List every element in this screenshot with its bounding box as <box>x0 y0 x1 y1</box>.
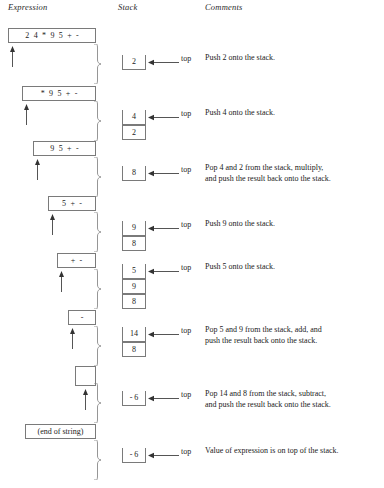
expression-token: - <box>80 254 83 267</box>
top-label: top <box>181 220 191 229</box>
brace-connector <box>93 326 102 366</box>
top-pointer-arrow <box>147 169 179 178</box>
expression-token: * <box>41 87 45 100</box>
top-label: top <box>181 263 191 272</box>
comment-line: push the result back onto the stack. <box>205 336 322 347</box>
top-pointer-arrow <box>147 394 179 403</box>
top-pointer-arrow <box>147 267 179 276</box>
stack-cell: 2 <box>122 55 146 70</box>
expression-box: +- <box>57 253 96 268</box>
comment-text: Pop 5 and 9 from the stack, add, andpush… <box>205 325 322 346</box>
expression-token: - <box>79 197 82 210</box>
top-label: top <box>181 109 191 118</box>
stack-column: 148 <box>122 327 146 357</box>
comment-line: Push 9 onto the stack. <box>205 219 275 230</box>
comment-text: Push 5 onto the stack. <box>205 262 275 273</box>
stack-cell: 4 <box>122 110 146 125</box>
comment-line: Value of expression is on top of the sta… <box>205 446 339 457</box>
column-header-stack: Stack <box>118 2 137 12</box>
stack-cell: - 6 <box>122 391 146 406</box>
top-pointer-arrow <box>147 330 179 339</box>
expression-box: *95+- <box>22 86 96 101</box>
comment-line: Pop 5 and 9 from the stack, add, and <box>205 325 322 336</box>
expression-token: 9 <box>50 142 54 155</box>
comment-text: Push 2 onto the stack. <box>205 53 275 64</box>
comment-text: Push 9 onto the stack. <box>205 219 275 230</box>
expression-token: 5 <box>59 142 63 155</box>
top-pointer-arrow <box>147 113 179 122</box>
expression-token: 5 <box>62 197 66 210</box>
brace-connector <box>93 383 102 423</box>
comment-line: and push the result back onto the stack. <box>205 174 331 185</box>
postfix-evaluation-figure: Expression Stack Comments 24*95+- *95+- … <box>0 0 384 488</box>
expression-token: (end of string) <box>38 425 84 438</box>
column-header-comments: Comments <box>205 2 243 12</box>
stack-column: 8 <box>122 166 146 181</box>
brace-connector <box>93 440 102 480</box>
stack-cell: - 6 <box>122 448 146 463</box>
stack-column: 98 <box>122 221 146 251</box>
comment-line: Pop 14 and 8 from the stack, subtract, <box>205 389 331 400</box>
brace-connector <box>93 157 102 197</box>
top-pointer-arrow <box>147 58 179 67</box>
token-pointer-arrow <box>69 327 76 349</box>
stack-column: - 6 <box>122 448 146 463</box>
expression-token: + <box>67 29 72 42</box>
expression-token: - <box>81 311 84 324</box>
expression-token: - <box>76 29 79 42</box>
column-header-expression: Expression <box>8 2 47 12</box>
stack-cell: 9 <box>122 221 146 236</box>
expression-token: * <box>42 29 46 42</box>
comment-line: Push 2 onto the stack. <box>205 53 275 64</box>
comment-line: Pop 4 and 2 from the stack, multiply, <box>205 163 331 174</box>
expression-token: 4 <box>34 29 38 42</box>
expression-token: 5 <box>57 87 61 100</box>
top-pointer-arrow <box>147 224 179 233</box>
brace-connector <box>93 101 102 141</box>
stack-cell: 8 <box>122 166 146 181</box>
expression-token: 9 <box>49 87 53 100</box>
token-pointer-arrow <box>49 213 56 235</box>
comment-line: Push 5 onto the stack. <box>205 262 275 273</box>
comment-text: Pop 14 and 8 from the stack, subtract,an… <box>205 389 331 410</box>
stack-cell: 8 <box>122 236 146 251</box>
token-pointer-arrow <box>9 45 16 67</box>
token-pointer-arrow <box>23 103 30 125</box>
expression-token: 9 <box>50 29 54 42</box>
stack-column: 42 <box>122 110 146 140</box>
comment-text: Pop 4 and 2 from the stack, multiply,and… <box>205 163 331 184</box>
stack-column: - 6 <box>122 391 146 406</box>
expression-token: 5 <box>59 29 63 42</box>
expression-box: 5+- <box>48 196 96 211</box>
brace-connector <box>93 212 102 252</box>
comment-text: Value of expression is on top of the sta… <box>205 446 339 457</box>
expression-token: + <box>70 197 75 210</box>
expression-token: - <box>75 87 78 100</box>
token-pointer-arrow <box>58 270 65 292</box>
comment-text: Push 4 onto the stack. <box>205 108 275 119</box>
top-label: top <box>181 54 191 63</box>
expression-box-end-of-string: (end of string) <box>25 424 96 439</box>
expression-token: + <box>71 254 76 267</box>
top-label: top <box>181 447 191 456</box>
stack-cell: 8 <box>122 342 146 357</box>
stack-cell: 14 <box>122 327 146 342</box>
stack-cell: 2 <box>122 125 146 140</box>
top-label: top <box>181 390 191 399</box>
stack-column: 598 <box>122 264 146 309</box>
expression-box: 24*95+- <box>8 28 96 43</box>
expression-token: + <box>67 142 72 155</box>
comment-line: Push 4 onto the stack. <box>205 108 275 119</box>
expression-box: 95+- <box>33 141 96 156</box>
token-pointer-arrow <box>82 388 89 410</box>
token-pointer-arrow <box>34 158 41 180</box>
stack-cell: 5 <box>122 264 146 279</box>
top-label: top <box>181 326 191 335</box>
stack-cell: 9 <box>122 279 146 294</box>
comment-line: and push the result back onto the stack. <box>205 400 331 411</box>
brace-connector <box>93 44 102 84</box>
top-pointer-arrow <box>147 451 179 460</box>
stack-cell: 8 <box>122 294 146 309</box>
expression-token: - <box>76 142 79 155</box>
expression-box: - <box>68 310 96 325</box>
